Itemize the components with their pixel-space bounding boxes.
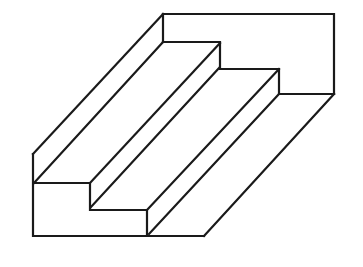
step-edge-1 — [34, 42, 163, 183]
front-step-risers — [34, 183, 147, 236]
front-step-profile — [33, 154, 204, 236]
left-top-edge — [33, 14, 163, 154]
step-edge-4 — [147, 69, 279, 210]
bottom-right-edge — [204, 94, 334, 236]
back-step-profile — [163, 42, 334, 94]
staircase-outline — [33, 14, 334, 236]
step-edge-3 — [91, 68, 219, 207]
step-edge-2 — [90, 43, 220, 183]
schroder-staircase-diagram — [0, 0, 363, 267]
step-edge-5 — [149, 95, 278, 234]
back-wall-outline — [163, 14, 334, 94]
